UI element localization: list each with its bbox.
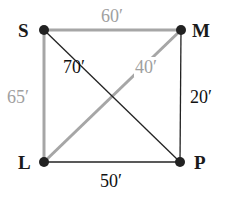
node-p (175, 157, 185, 167)
weight-s-p: 70′ (63, 57, 85, 77)
node-l (39, 157, 49, 167)
weight-l-p: 50′ (100, 171, 122, 191)
weight-l-m: 40′ (135, 57, 157, 77)
weight-m-p: 20′ (190, 87, 212, 107)
weight-s-l: 65′ (7, 87, 29, 107)
node-s (39, 25, 49, 35)
node-m (176, 25, 186, 35)
node-label-m: M (192, 20, 210, 41)
graph-diagram: S M L P 60′ 65′ 40′ 70′ 20′ 50′ (0, 0, 228, 198)
weight-s-m: 60′ (101, 6, 123, 26)
node-label-l: L (18, 152, 31, 173)
edge-m-p (180, 30, 181, 162)
node-label-s: S (18, 20, 29, 41)
node-label-p: P (194, 152, 206, 173)
